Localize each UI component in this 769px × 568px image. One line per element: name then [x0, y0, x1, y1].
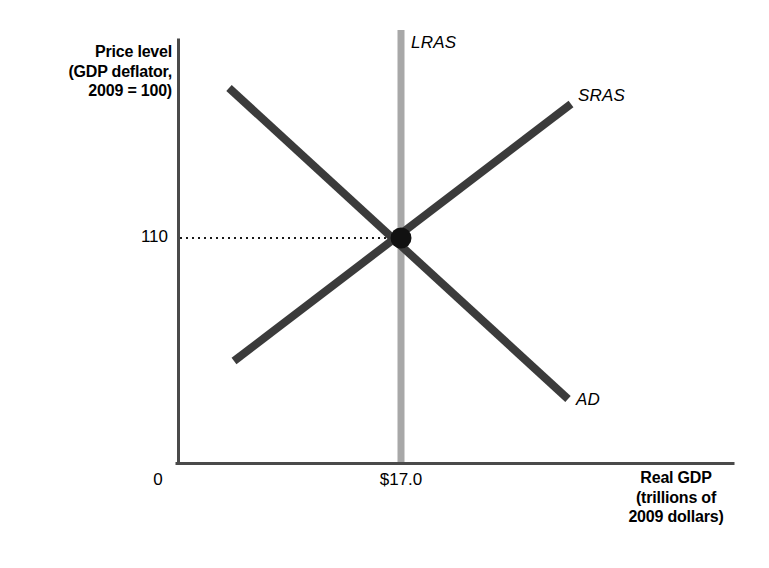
- x-axis-title: Real GDP (trillions of 2009 dollars): [583, 468, 769, 527]
- lras-curve-label: LRAS: [411, 33, 456, 54]
- aggregate-demand-supply-chart: Price level (GDP deflator, 2009 = 100) R…: [0, 0, 769, 568]
- equilibrium-point-marker: [391, 228, 412, 249]
- sras-curve-label: SRAS: [578, 86, 625, 107]
- x-axis-tick-17-trillion: $17.0: [349, 470, 453, 491]
- y-axis-title: Price level (GDP deflator, 2009 = 100): [0, 42, 172, 101]
- ad-curve-label: AD: [576, 390, 600, 411]
- axis-origin-label: 0: [140, 470, 176, 491]
- y-axis-tick-110: 110: [96, 227, 168, 248]
